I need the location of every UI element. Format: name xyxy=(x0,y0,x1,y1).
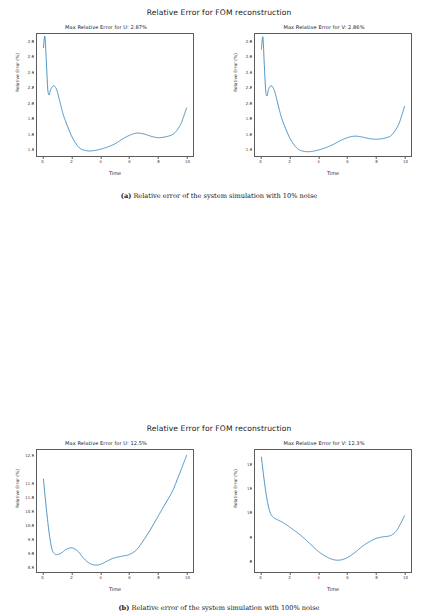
panel-b-v-xlabel: Time xyxy=(254,586,412,592)
x-tick-mark xyxy=(42,572,43,574)
x-tick-mark xyxy=(71,156,72,158)
panel-b-v-line xyxy=(261,457,404,560)
x-tick-mark xyxy=(129,572,130,574)
x-tick-label: 0 xyxy=(259,575,261,580)
y-tick-mark xyxy=(32,118,34,119)
y-tick-label: 1.8 xyxy=(12,116,34,121)
y-tick-mark xyxy=(32,40,34,41)
figure-a-title: Relative Error for FOM reconstruction xyxy=(0,8,438,17)
y-tick-mark xyxy=(32,56,34,57)
panel-b-u-plot-area xyxy=(36,449,194,573)
x-tick-mark xyxy=(318,156,319,158)
y-tick-mark xyxy=(250,102,252,103)
panel-b-u-curve-svg xyxy=(37,450,193,572)
y-tick-mark xyxy=(32,497,34,498)
y-tick-mark xyxy=(250,536,252,537)
y-tick-mark xyxy=(32,454,34,455)
y-tick-mark xyxy=(250,488,252,489)
x-tick-mark xyxy=(347,572,348,574)
x-tick-mark xyxy=(187,572,188,574)
y-tick-mark xyxy=(250,561,252,562)
panel-a-u-title: Max Relative Error for U: 2.87% xyxy=(8,24,204,30)
y-tick-mark xyxy=(250,71,252,72)
x-tick-mark xyxy=(347,156,348,158)
x-tick-mark xyxy=(129,156,130,158)
x-tick-label: 10 xyxy=(185,575,190,580)
x-tick-label: 8 xyxy=(157,575,159,580)
x-tick-label: 4 xyxy=(317,575,319,580)
x-tick-label: 4 xyxy=(99,159,101,164)
panel-a-u-xaxis: 0246810 xyxy=(36,159,194,167)
panel-a-u-plot-area xyxy=(36,33,194,157)
caption-b: (b) Relative error of the system simulat… xyxy=(0,604,438,612)
x-tick-label: 2 xyxy=(70,575,72,580)
panel-b-v-ylabel: Relative Error (%) xyxy=(233,458,238,520)
y-tick-mark xyxy=(250,56,252,57)
panel-a-v-plot-area xyxy=(254,33,412,157)
y-tick-label: 1.4 xyxy=(230,147,252,152)
panel-b-v-xaxis: 0246810 xyxy=(254,575,412,583)
caption-a-text: Relative error of the system simulation … xyxy=(133,192,317,200)
x-tick-mark xyxy=(100,572,101,574)
panel-b-u-xaxis: 0246810 xyxy=(36,575,194,583)
x-tick-mark xyxy=(42,156,43,158)
panel-b-v: Max Relative Error for V: 12.3% 89101112… xyxy=(226,440,422,600)
x-tick-mark xyxy=(289,572,290,574)
y-tick-label: 9 xyxy=(230,534,252,539)
y-tick-label: 1.6 xyxy=(12,131,34,136)
panel-a-u-yaxis: 1.41.61.82.02.22.42.62.8 xyxy=(8,33,34,157)
y-tick-mark xyxy=(250,118,252,119)
panel-b-u-title: Max Relative Error for U: 12.5% xyxy=(8,440,204,446)
figure-panel-b: Relative Error for FOM reconstruction Ma… xyxy=(0,416,438,616)
x-tick-mark xyxy=(376,572,377,574)
y-tick-mark xyxy=(32,539,34,540)
x-tick-mark xyxy=(100,156,101,158)
x-tick-mark xyxy=(260,156,261,158)
panel-b-v-title: Max Relative Error for V: 12.3% xyxy=(226,440,422,446)
y-tick-label: 1.6 xyxy=(230,131,252,136)
panel-b-v-curve-svg xyxy=(255,450,411,572)
x-tick-label: 4 xyxy=(99,575,101,580)
x-tick-mark xyxy=(405,156,406,158)
x-tick-label: 6 xyxy=(128,159,130,164)
panel-b-u-yaxis: 8.59.09.510.010.511.011.512.5 xyxy=(8,449,34,573)
panel-b-u: Max Relative Error for U: 12.5% 8.59.09.… xyxy=(8,440,204,600)
panel-a-u: Max Relative Error for U: 2.87% 1.41.61.… xyxy=(8,24,204,184)
y-tick-mark xyxy=(32,71,34,72)
panel-a-u-line xyxy=(43,36,186,151)
caption-a: (a) Relative error of the system simulat… xyxy=(0,192,438,200)
y-tick-label: 1.8 xyxy=(230,116,252,121)
panel-a-v-ylabel: Relative Error (%) xyxy=(233,42,238,104)
panel-a-v-xaxis: 0246810 xyxy=(254,159,412,167)
y-tick-mark xyxy=(32,149,34,150)
y-tick-mark xyxy=(32,553,34,554)
x-tick-label: 6 xyxy=(128,575,130,580)
y-tick-mark xyxy=(32,102,34,103)
y-tick-mark xyxy=(250,149,252,150)
caption-b-text: Relative error of the system simulation … xyxy=(131,604,319,612)
panel-a-u-ylabel: Relative Error (%) xyxy=(15,42,20,104)
y-tick-label: 1.4 xyxy=(12,147,34,152)
panel-b-u-xlabel: Time xyxy=(36,586,194,592)
x-tick-label: 2 xyxy=(288,159,290,164)
panel-b-u-ylabel: Relative Error (%) xyxy=(15,458,20,520)
panel-a-v-curve-svg xyxy=(255,34,411,156)
figure-panel-a: Relative Error for FOM reconstruction Ma… xyxy=(0,0,438,208)
x-tick-label: 4 xyxy=(317,159,319,164)
y-tick-label: 10.0 xyxy=(12,523,34,528)
panel-a-v-line xyxy=(261,37,404,152)
y-tick-mark xyxy=(250,87,252,88)
x-tick-label: 0 xyxy=(41,159,43,164)
x-tick-mark xyxy=(260,572,261,574)
y-tick-label: 8.5 xyxy=(12,565,34,570)
x-tick-label: 8 xyxy=(375,159,377,164)
panel-a-u-curve-svg xyxy=(37,34,193,156)
x-tick-label: 10 xyxy=(185,159,190,164)
y-tick-mark xyxy=(250,463,252,464)
y-tick-label: 12.5 xyxy=(12,452,34,457)
y-tick-label: 9.5 xyxy=(12,537,34,542)
x-tick-label: 0 xyxy=(259,159,261,164)
x-tick-mark xyxy=(158,572,159,574)
x-tick-label: 10 xyxy=(403,159,408,164)
y-tick-mark xyxy=(32,483,34,484)
